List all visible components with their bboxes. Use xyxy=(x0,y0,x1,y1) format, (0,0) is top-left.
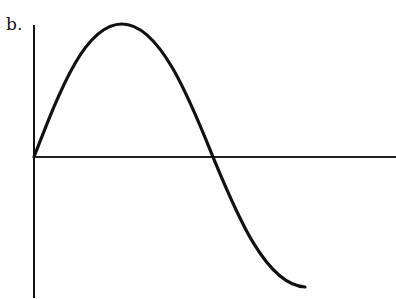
sine-curve xyxy=(34,24,305,287)
sine-diagram xyxy=(0,0,396,299)
